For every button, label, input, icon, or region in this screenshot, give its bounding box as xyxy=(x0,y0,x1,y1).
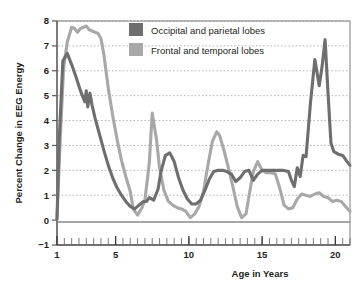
y-tick-label: 0 xyxy=(44,215,49,226)
y-tick-label: 8 xyxy=(44,15,49,26)
y-tick-label: 6 xyxy=(44,65,49,76)
x-tick-label: 20 xyxy=(330,249,341,260)
x-tick-label: 10 xyxy=(184,249,195,260)
x-tick-label: 1 xyxy=(54,249,60,260)
legend-label: Occipital and parietal lobes xyxy=(151,25,265,36)
x-tick-label: 15 xyxy=(257,249,268,260)
y-tick-label: 7 xyxy=(44,40,49,51)
eeg-energy-line-chart: 876543210−1 15101520 Age in Years Percen… xyxy=(0,0,364,291)
y-tick-label: 3 xyxy=(44,140,49,151)
y-tick-label: 2 xyxy=(44,165,49,176)
y-axis-title: Percent Change in EEG Energy xyxy=(13,62,24,204)
legend-swatch xyxy=(129,43,143,56)
y-axis-ticks: 876543210−1 xyxy=(38,15,57,250)
y-tick-label: 5 xyxy=(44,90,50,101)
y-tick-label: −1 xyxy=(38,239,50,250)
y-tick-label: 1 xyxy=(44,190,50,201)
legend-label: Frontal and temporal lobes xyxy=(151,45,264,56)
x-axis-title: Age in Years xyxy=(232,268,289,279)
x-tick-label: 5 xyxy=(113,249,119,260)
legend-swatch xyxy=(129,23,143,36)
chart-canvas: 876543210−1 15101520 Age in Years Percen… xyxy=(0,0,364,291)
y-tick-label: 4 xyxy=(44,115,50,126)
x-axis-minor-ticks xyxy=(57,238,350,245)
